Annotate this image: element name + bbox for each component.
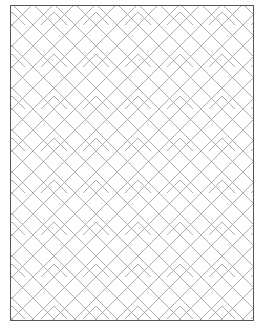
pattern-frame [10,5,254,321]
lattice-pattern [11,6,254,321]
